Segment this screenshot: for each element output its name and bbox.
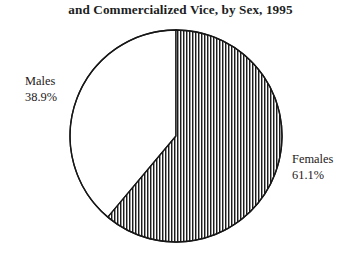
pie-label-males-percent: 38.9% [25,90,57,106]
pie-chart-figure [0,0,361,259]
pie-label-males-name: Males [25,74,57,90]
pie-chart-page: and Commercialized Vice, by Sex, 1995 Ma… [0,0,361,259]
pie-label-females-name: Females [292,152,333,168]
pie-label-females: Females 61.1% [292,152,333,183]
pie-label-females-percent: 61.1% [292,168,333,184]
pie-label-males: Males 38.9% [25,74,57,105]
